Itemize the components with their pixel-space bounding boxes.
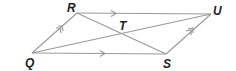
side-sq xyxy=(32,53,166,54)
vertex-label-u: U xyxy=(213,4,222,18)
parallelogram-diagram: R U T Q S xyxy=(0,0,236,71)
side-us xyxy=(166,14,211,54)
side-qr xyxy=(32,13,77,53)
vertex-label-r: R xyxy=(67,1,76,15)
intersection-label-t: T xyxy=(119,19,128,33)
side-ru xyxy=(77,13,211,14)
vertex-label-s: S xyxy=(163,57,171,71)
vertex-label-q: Q xyxy=(25,56,35,70)
